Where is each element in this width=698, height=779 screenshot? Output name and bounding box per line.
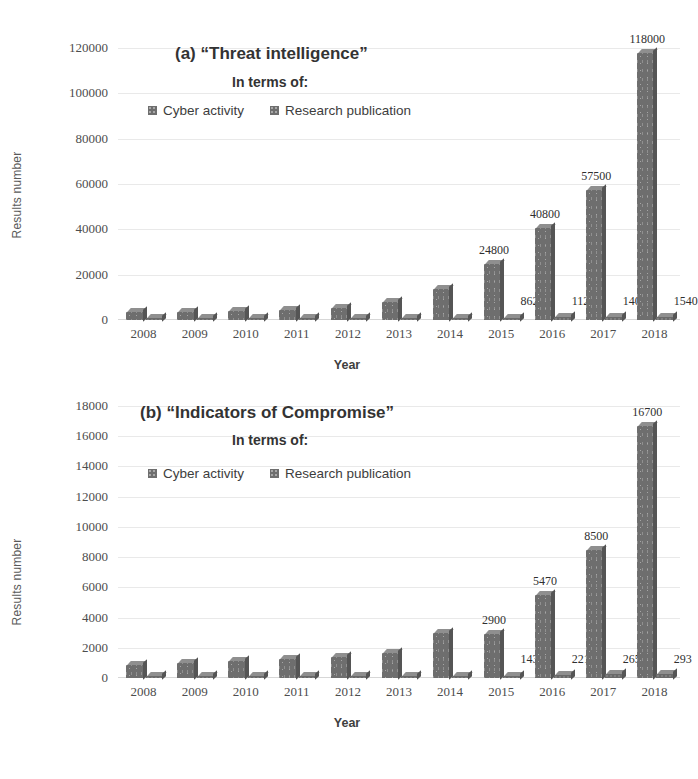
x-tick-label: 2009 [182,684,208,700]
data-label-cyber-activity: 40800 [530,207,560,222]
bar-research-publication [146,676,162,678]
bar-group [169,406,220,678]
bar-cyber-activity [433,289,449,320]
bar-side-face [673,668,677,680]
legend-item[interactable]: Cyber activity [148,466,244,481]
y-tick-label: 2000 [82,640,108,656]
bar-side-face [551,590,555,680]
bar-cyber-activity [637,53,653,320]
x-tick-label: 2013 [386,326,412,342]
bar-group [629,48,680,320]
bar-cyber-activity [126,312,142,320]
bar-cyber-activity [228,661,244,678]
y-tick-label: 6000 [82,579,108,595]
chart-threat-intelligence: Results number 0200004000060000800001000… [0,0,694,390]
bar-research-publication [503,318,519,320]
bar-cyber-activity [433,633,449,678]
bar-group [629,406,680,678]
bar-side-face [449,283,453,321]
x-tick-label: 2015 [488,326,514,342]
legend-label: Research publication [285,103,411,118]
bar-cyber-activity [535,595,551,678]
bar-side-face [622,668,626,680]
bar-side-face [417,670,421,680]
bar-group [373,48,424,320]
bar-research-publication [452,676,468,678]
y-tick-label: 4000 [82,610,108,626]
bar-side-face [468,670,472,680]
bar-research-publication [248,318,264,320]
x-tick-label: 2012 [335,684,361,700]
bar-group [476,406,527,678]
bar-cyber-activity [331,308,347,320]
bar-research-publication [401,318,417,320]
bar-cyber-activity [586,190,602,320]
legend-item[interactable]: Research publication [270,466,411,481]
bar-side-face [213,670,217,680]
legend-swatch-icon [270,469,279,478]
y-tick-label: 8000 [82,549,108,565]
x-axis-title-a: Year [0,358,694,372]
bar-side-face [162,312,166,322]
bar-cyber-activity [586,550,602,678]
legend-item[interactable]: Research publication [270,103,411,118]
x-tick-label: 2011 [284,326,310,342]
bar-cyber-activity [177,663,193,678]
bar-cyber-activity [637,426,653,678]
bar-group [425,406,476,678]
bar-group [578,48,629,320]
bar-group [322,48,373,320]
y-tick-label: 12000 [76,489,109,505]
bar-research-publication [197,676,213,678]
bar-side-face [417,312,421,322]
bar-group [476,48,527,320]
bar-research-publication [197,318,213,320]
x-tick-label: 2011 [284,684,310,700]
y-tick-label: 60000 [76,176,109,192]
bar-research-publication [656,317,672,320]
legend-item[interactable]: Cyber activity [148,103,244,118]
y-tick-label: 80000 [76,131,109,147]
bar-research-publication [554,675,570,678]
bar-cyber-activity [382,653,398,678]
legend-swatch-icon [270,106,279,115]
bar-research-publication [554,317,570,320]
bar-side-face [315,670,319,680]
bar-group [118,406,169,678]
legend-label: Cyber activity [163,103,244,118]
y-axis-ticks-b: 0200040006000800010000120001400016000180… [28,406,112,678]
bar-research-publication [452,318,468,320]
y-tick-label: 16000 [76,428,109,444]
chart-subtitle-b: In terms of: [232,432,308,448]
x-tick-label: 2015 [488,684,514,700]
legend-swatch-icon [148,106,157,115]
bar-group [425,48,476,320]
y-tick-label: 120000 [69,40,108,56]
bar-side-face [468,312,472,322]
y-tick-label: 40000 [76,221,109,237]
bar-side-face [449,628,453,680]
legend-label: Research publication [285,466,411,481]
bar-side-face [653,47,657,322]
bar-research-publication [350,676,366,678]
bar-research-publication [146,318,162,320]
bar-side-face [653,420,657,680]
y-tick-label: 14000 [76,458,109,474]
bar-research-publication [350,318,366,320]
plot-area-b: 29001435470221850026516700293 [118,406,680,678]
bar-research-publication [605,317,621,320]
bar-research-publication [401,676,417,678]
chart-title-a: (a) “Threat intelligence” [175,44,368,64]
x-tick-label: 2014 [437,326,463,342]
x-tick-label: 2013 [386,684,412,700]
data-label-cyber-activity: 57500 [581,169,611,184]
bar-side-face [551,222,555,322]
x-tick-label: 2009 [182,326,208,342]
bar-group [527,406,578,678]
bar-cyber-activity [126,665,142,678]
bar-side-face [213,312,217,322]
y-tick-label: 10000 [76,519,109,535]
bar-side-face [315,312,319,322]
bar-side-face [264,670,268,680]
bar-side-face [602,544,606,680]
